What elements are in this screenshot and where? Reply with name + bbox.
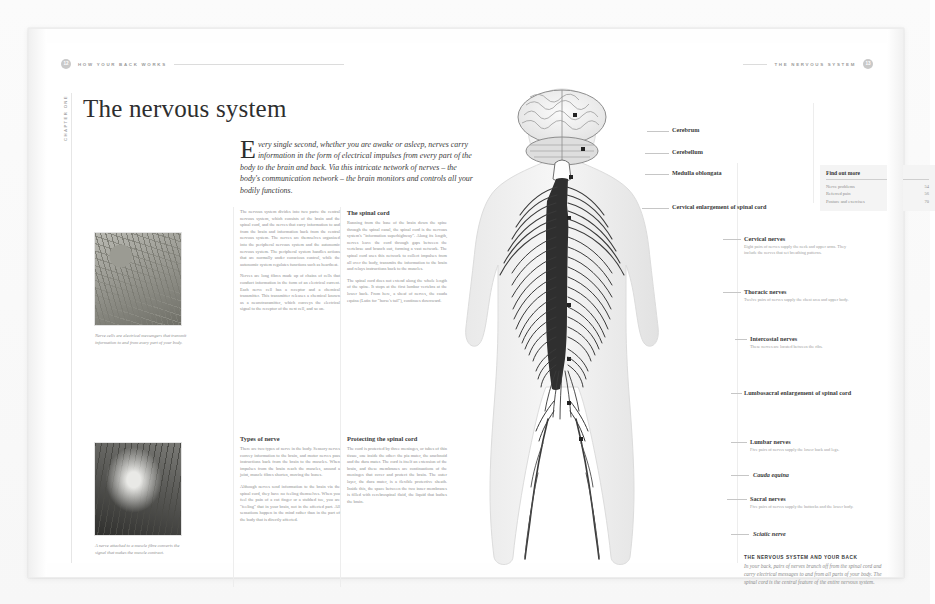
find-out-more-row[interactable]: Nerve problems 54 — [826, 183, 929, 190]
label-title: Sciatic nerve — [753, 530, 786, 538]
label-cervical-enlargement: Cervical enlargement of spinal cord — [672, 203, 767, 211]
label-title: Cerebrum — [672, 126, 699, 134]
find-out-more-box: Find out more Nerve problems 54 Referred… — [820, 165, 935, 211]
column-heading: Types of nerve — [240, 435, 340, 443]
photo-caption-nerve-cells: Nerve cells are electrical messengers th… — [95, 332, 187, 346]
leader-cerebrum — [647, 131, 669, 132]
label-desc: Twelve pairs of nerves supply the chest … — [744, 297, 859, 303]
label-desc: Five pairs of nerves supply the buttocks… — [750, 504, 862, 510]
paragraph: Nerves are long fibres made up of chains… — [240, 273, 340, 313]
paragraph: Running from the base of the brain down … — [347, 220, 447, 273]
label-title: Lumbosacral enlargement of spinal cord — [744, 389, 859, 397]
paragraph: There are two types of nerve in the body… — [240, 446, 340, 479]
running-head-right: THE NERVOUS SYSTEM 13 — [743, 59, 873, 69]
note-heading: THE NERVOUS SYSTEM AND YOUR BACK — [744, 555, 894, 560]
photo-caption-muscle-fibre: A nerve attached to a muscle fibre conve… — [95, 542, 187, 556]
label-intercostal-nerves: Intercostal nerves These nerves are loca… — [750, 335, 862, 350]
label-title: Intercostal nerves — [750, 335, 862, 343]
label-sacral-nerves: Sacral nerves Five pairs of nerves suppl… — [750, 495, 862, 510]
marker-sciatic — [579, 437, 583, 441]
find-out-more-title: Find out more — [826, 170, 929, 176]
running-head-rule-right — [743, 64, 767, 65]
note-body: In your back, pairs of nerves branch off… — [744, 562, 894, 587]
label-cauda-equina: Cauda equina — [753, 471, 789, 479]
label-title: Cervical enlargement of spinal cord — [672, 203, 767, 211]
label-title: Lumbar nerves — [750, 438, 862, 446]
column-rule-1 — [233, 207, 234, 587]
label-cervical-nerves: Cervical nerves Eight pairs of nerves su… — [744, 235, 859, 256]
label-title: Thoracic nerves — [744, 288, 859, 296]
leader-cervical-enlargement — [642, 208, 669, 209]
find-out-more-divider — [826, 179, 929, 180]
label-title: Cerebellum — [672, 148, 703, 156]
label-medulla-oblongata: Medulla oblongata — [672, 169, 722, 177]
leader-thoracic-nerves — [723, 292, 741, 293]
body-column-2: The spinal cord Running from the base of… — [347, 209, 447, 309]
label-title: Cauda equina — [753, 471, 789, 479]
find-out-more-label: Nerve problems — [826, 183, 855, 190]
find-out-more-label: Referred pain — [826, 190, 851, 197]
leg-nerve-branches — [525, 443, 599, 557]
find-out-more-page: 54 — [925, 183, 930, 190]
drop-cap: E — [240, 139, 258, 160]
label-lumbosacral-enlargement: Lumbosacral enlargement of spinal cord — [744, 389, 859, 397]
leader-intercostal-nerves — [735, 339, 747, 340]
column-rule-2 — [340, 207, 341, 587]
running-head-rule-left — [174, 64, 344, 65]
label-title: Medulla oblongata — [672, 169, 722, 177]
running-head-left-label: HOW YOUR BACK WORKS — [78, 62, 167, 67]
marker-sacral — [567, 401, 571, 405]
label-cerebrum: Cerebrum — [672, 126, 699, 134]
leader-sciatic-nerve — [731, 534, 749, 535]
find-out-more-rule — [813, 103, 814, 203]
leader-medulla — [645, 174, 669, 175]
chapter-tab: CHAPTER ONE — [63, 95, 68, 141]
label-desc: Eight pairs of nerves supply the neck an… — [744, 244, 859, 256]
body-column-4: Protecting the spinal cord The cord is p… — [347, 435, 447, 510]
book-spread: 12 HOW YOUR BACK WORKS THE NERVOUS SYSTE… — [28, 28, 904, 578]
spread-inner: 12 HOW YOUR BACK WORKS THE NERVOUS SYSTE… — [47, 43, 887, 563]
right-column-rule — [737, 163, 738, 563]
label-desc: These nerves are located between the rib… — [750, 344, 862, 350]
marker-thoracic — [567, 303, 571, 307]
find-out-more-row[interactable]: Referred pain 56 — [826, 190, 929, 197]
photo-muscle-fibre — [95, 443, 181, 535]
label-lumbar-nerves: Lumbar nerves Five pairs of nerves suppl… — [750, 438, 862, 453]
leader-cervical-nerves — [723, 239, 741, 240]
leader-lumbosacral — [731, 393, 742, 394]
find-out-more-row[interactable]: Posture and exercises 70 — [826, 198, 929, 205]
label-thoracic-nerves: Thoracic nerves Twelve pairs of nerves s… — [744, 288, 859, 303]
running-head-right-label: THE NERVOUS SYSTEM — [774, 62, 856, 67]
folio-right: 13 — [863, 59, 873, 69]
body-column-1: The nervous system divides into two part… — [240, 209, 340, 318]
chapter-tab-rule — [71, 93, 72, 563]
nervous-system-and-your-back-note: THE NERVOUS SYSTEM AND YOUR BACK In your… — [744, 555, 894, 587]
label-desc: Five pairs of nerves supply the lower ba… — [750, 447, 862, 453]
standfirst-text: very single second, whether you are awak… — [240, 140, 473, 195]
photo-nerve-cells — [95, 233, 181, 325]
standfirst: Every single second, whether you are awa… — [240, 139, 475, 196]
leader-cerebellum — [645, 153, 669, 154]
label-title: Sacral nerves — [750, 495, 862, 503]
leader-lumbar-nerves — [731, 442, 747, 443]
paragraph: The nervous system divides into two part… — [240, 209, 340, 268]
label-title: Cervical nerves — [744, 235, 859, 243]
body-column-3: Types of nerve There are two types of ne… — [240, 435, 340, 529]
cerebrum — [518, 90, 606, 144]
folio-left: 12 — [61, 59, 71, 69]
paragraph: The spinal cord does not extend along th… — [347, 278, 447, 304]
page-title: The nervous system — [83, 95, 287, 123]
find-out-more-page: 56 — [925, 190, 930, 197]
sciatic-nerve — [525, 419, 599, 559]
leader-cauda-equina — [731, 475, 749, 476]
label-cerebellum: Cerebellum — [672, 148, 703, 156]
running-head-left: 12 HOW YOUR BACK WORKS — [61, 59, 344, 69]
paragraph: The cord is protected by three meninges,… — [347, 446, 447, 505]
column-heading: Protecting the spinal cord — [347, 435, 447, 443]
label-sciatic-nerve: Sciatic nerve — [753, 530, 786, 538]
column-heading: The spinal cord — [347, 209, 447, 217]
paragraph: Although nerves send information to the … — [240, 484, 340, 524]
leader-sacral-nerves — [727, 499, 747, 500]
find-out-more-label: Posture and exercises — [826, 198, 865, 205]
